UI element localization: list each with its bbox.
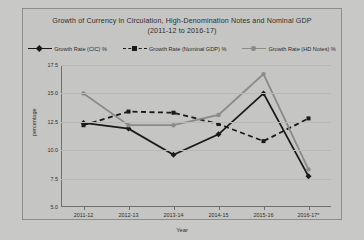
legend-swatch-circle-icon — [242, 45, 266, 52]
y-tick-label-1: 7.5 — [51, 176, 59, 182]
y-tick-label-5: 17.5 — [48, 62, 59, 68]
x-tick-mark-3 — [219, 207, 220, 210]
data-point-1-5 — [307, 116, 311, 120]
chart-page: Growth of Currency in Circulation, High-… — [0, 0, 364, 240]
legend-label-1: Growth Rate (Nominal GDP) % — [149, 46, 226, 52]
x-tick-mark-5 — [309, 207, 310, 210]
data-point-2-5 — [306, 167, 310, 171]
data-point-2-3 — [216, 113, 220, 117]
legend-swatch-diamond-icon — [28, 45, 52, 52]
data-point-1-1 — [127, 110, 131, 114]
x-tick-label-5: 2016-17* — [298, 212, 320, 218]
series-layer — [61, 65, 331, 207]
legend-item-0[interactable]: Growth Rate (CIC) % — [28, 45, 107, 52]
y-tick-label-3: 12.5 — [48, 119, 59, 125]
legend-label-0: Growth Rate (CIC) % — [54, 46, 107, 52]
gridline-y-3 — [61, 122, 331, 123]
data-point-2-1 — [126, 123, 130, 127]
legend-label-2: Growth Rate (HD Notes) % — [268, 46, 335, 52]
x-tick-label-3: 2014-15 — [209, 212, 229, 218]
gridline-y-2 — [61, 150, 331, 151]
x-tick-mark-2 — [174, 207, 175, 210]
x-tick-mark-1 — [129, 207, 130, 210]
chart-container: Growth of Currency in Circulation, High-… — [22, 8, 342, 220]
x-tick-mark-0 — [84, 207, 85, 210]
chart-legend: Growth Rate (CIC) %Growth Rate (Nominal … — [23, 45, 341, 52]
plot-area: 5.07.510.012.515.017.52011-122012-132013… — [61, 65, 331, 207]
legend-item-2[interactable]: Growth Rate (HD Notes) % — [242, 45, 335, 52]
chart-title-line2: (2011-12 to 2016-17) — [23, 26, 341, 36]
y-tick-label-2: 10.0 — [48, 147, 59, 153]
x-tick-label-1: 2012-13 — [119, 212, 139, 218]
chart-title-line1: Growth of Currency in Circulation, High-… — [52, 17, 311, 25]
x-tick-label-0: 2011-12 — [74, 212, 93, 218]
gridline-y-4 — [61, 93, 331, 94]
y-tick-label-4: 15.0 — [48, 90, 59, 96]
data-point-1-2 — [172, 111, 176, 115]
legend-swatch-square-icon — [123, 45, 147, 52]
data-point-1-4 — [262, 139, 266, 143]
x-tick-mark-4 — [264, 207, 265, 210]
x-tick-label-2: 2013-14 — [164, 212, 184, 218]
data-point-1-0 — [82, 123, 86, 127]
data-point-2-4 — [261, 72, 265, 76]
gridline-y-5 — [61, 65, 331, 66]
x-tick-label-4: 2015-16 — [254, 212, 274, 218]
y-axis-title: percentage — [31, 108, 37, 136]
gridline-y-1 — [61, 179, 331, 180]
chart-title: Growth of Currency in Circulation, High-… — [23, 16, 341, 36]
x-axis-title: Year — [23, 227, 341, 233]
legend-item-1[interactable]: Growth Rate (Nominal GDP) % — [123, 45, 226, 52]
data-point-2-2 — [171, 123, 175, 127]
y-tick-label-0: 5.0 — [51, 204, 59, 210]
